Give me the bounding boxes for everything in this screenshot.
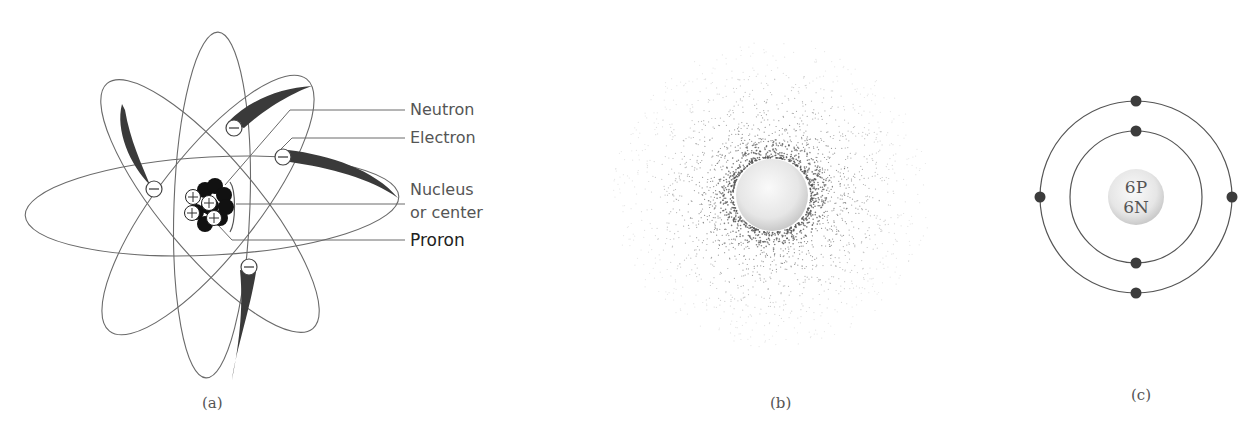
- nucleus-b: [736, 159, 808, 231]
- electron-dot-icon: [1131, 258, 1142, 269]
- nucleus-a: [185, 178, 235, 232]
- electron-dot-icon: [1035, 192, 1046, 203]
- neutrons-count: 6N: [1106, 197, 1166, 217]
- electron-dot-icon: [1131, 126, 1142, 137]
- atom-diagrams: [0, 0, 1254, 424]
- caption-b: (b): [770, 394, 791, 412]
- electron-dot-icon: [1131, 96, 1142, 107]
- nucleus-c-text: 6P 6N: [1106, 177, 1166, 217]
- electron-dot-icon: [1227, 192, 1238, 203]
- protons-count: 6P: [1106, 177, 1166, 197]
- label-electron: Electron: [410, 129, 476, 147]
- electron-trails: [120, 86, 398, 380]
- label-nucleus: Nucleus: [410, 181, 474, 199]
- caption-c: (c): [1131, 386, 1151, 404]
- label-or-center: or center: [410, 204, 483, 222]
- panel-a-atom-model: [23, 31, 405, 380]
- electron-dot-icon: [1131, 288, 1142, 299]
- caption-a: (a): [202, 394, 223, 412]
- label-proton: Proron: [410, 231, 465, 249]
- label-neutron: Neutron: [410, 101, 474, 119]
